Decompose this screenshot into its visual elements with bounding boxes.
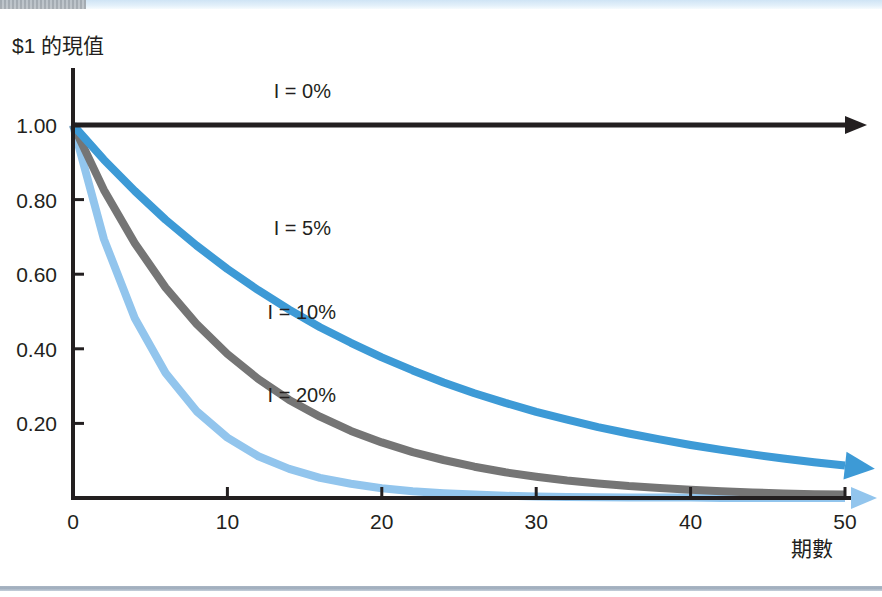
- series-label-20pct: I = 20%: [268, 384, 337, 406]
- x-tick-label-20: 20: [370, 510, 393, 533]
- curves-layer: [73, 116, 875, 498]
- curve-5pct: [73, 125, 845, 466]
- arrowhead-5pct: [843, 452, 874, 480]
- x-axis-arrowhead: [851, 487, 877, 509]
- x-tick-label-50: 50: [833, 510, 856, 533]
- x-axis-title: 期數: [791, 537, 833, 560]
- axis-lines: [73, 68, 861, 498]
- curve-10pct: [73, 125, 845, 495]
- y-tick-label-0.40: 0.40: [16, 338, 57, 361]
- x-tick-label-10: 10: [216, 510, 239, 533]
- y-axis-title: $1 的現值: [12, 34, 104, 57]
- x-tick-label-40: 40: [679, 510, 702, 533]
- series-label-0pct: I = 0%: [274, 80, 331, 102]
- y-tick-label-0.20: 0.20: [16, 412, 57, 435]
- axes-layer: [73, 68, 877, 509]
- present-value-chart: 1.000.800.600.400.2001020304050 I = 0%I …: [0, 0, 882, 597]
- y-tick-label-1.00: 1.00: [16, 114, 57, 137]
- arrowhead-0pct: [845, 116, 867, 134]
- series-labels: I = 0%I = 5%I = 10%I = 20%: [268, 80, 337, 406]
- series-label-10pct: I = 10%: [268, 301, 337, 323]
- x-tick-label-0: 0: [67, 510, 79, 533]
- x-tick-label-30: 30: [525, 510, 548, 533]
- y-tick-label-0.80: 0.80: [16, 189, 57, 212]
- y-tick-label-0.60: 0.60: [16, 263, 57, 286]
- series-label-5pct: I = 5%: [274, 217, 331, 239]
